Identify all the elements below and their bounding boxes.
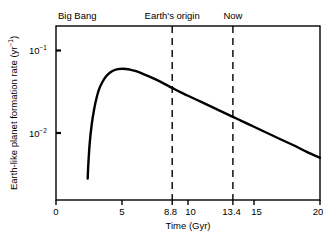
x-tick-label-13-4: 13.4 [222,206,241,217]
annotation-now: Now [223,10,242,21]
x-tick-label-8-8: 8.8 [164,206,177,217]
annotation-labels: Big Bang Earth's origin Now [58,10,243,21]
x-tick-label-20: 20 [313,206,324,217]
plot-frame [56,26,320,200]
x-tick-label-5: 5 [119,206,124,217]
chart-svg: 10−1 10−2 Earth-like planet formation ra… [0,0,335,237]
x-tick-label-0: 0 [53,206,58,217]
x-tick-label-10: 10 [185,206,196,217]
y-tick-label-1e-1: 10−1 [29,44,47,56]
x-axis-ticks [56,200,320,205]
x-axis-title: Time (Gyr) [165,220,210,231]
x-tick-labels: 0 5 8.8 10 13.4 15 20 [53,206,323,217]
y-tick-labels: 10−1 10−2 [29,44,47,139]
annotation-earths-origin: Earth's origin [145,10,200,21]
annotation-big-bang: Big Bang [58,10,97,21]
y-axis-title: Earth-like planet formation rate (yr−1) [7,36,19,190]
y-tick-label-1e-2: 10−2 [29,127,47,139]
x-tick-label-15: 15 [251,206,262,217]
chart-figure: 10−1 10−2 Earth-like planet formation ra… [0,0,335,237]
